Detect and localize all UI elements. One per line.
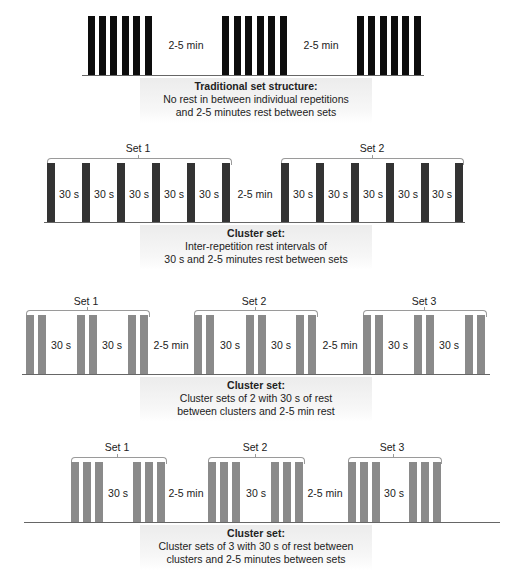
rep-bar xyxy=(372,462,380,522)
bracket-tick xyxy=(393,454,394,457)
rep-bar xyxy=(433,462,441,522)
set-label: Set 2 xyxy=(243,441,268,453)
rep-bar xyxy=(157,462,165,522)
rep-bar xyxy=(208,462,216,522)
cluster-of-3-diagram: Set 1 Set 2 Set 3 30 s 2-5 min 30 s 2-5 … xyxy=(0,0,512,579)
rep-bar xyxy=(133,462,141,522)
rep-bar xyxy=(232,462,240,522)
rest-label: 2-5 min xyxy=(168,487,203,499)
rep-bar xyxy=(360,462,368,522)
intra-rest-label: 30 s xyxy=(108,487,128,499)
intra-rest-label: 30 s xyxy=(246,487,266,499)
rest-label: 2-5 min xyxy=(307,487,342,499)
intra-rest-label: 30 s xyxy=(384,487,404,499)
rep-bar xyxy=(220,462,228,522)
rep-bar xyxy=(283,462,291,522)
rep-bar xyxy=(409,462,417,522)
set-label: Set 3 xyxy=(380,441,405,453)
caption-line: clusters and 2-5 minutes between sets xyxy=(140,553,372,566)
caption: Cluster set: Cluster sets of 3 with 30 s… xyxy=(140,525,372,570)
rep-bar xyxy=(271,462,279,522)
time-axis xyxy=(24,522,500,523)
bracket-tick xyxy=(117,454,118,457)
bracket-tick xyxy=(255,454,256,457)
rep-bar xyxy=(348,462,356,522)
rep-bar xyxy=(421,462,429,522)
rep-bar xyxy=(295,462,303,522)
rep-bar xyxy=(71,462,79,522)
rep-bar xyxy=(83,462,91,522)
set-label: Set 1 xyxy=(105,441,130,453)
rep-bar xyxy=(95,462,103,522)
rep-bar xyxy=(145,462,153,522)
caption-line: Cluster sets of 3 with 30 s of rest betw… xyxy=(140,540,372,553)
caption-title: Cluster set: xyxy=(140,527,372,540)
